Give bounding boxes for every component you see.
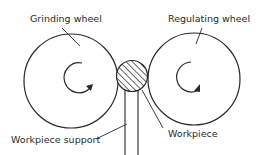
rotation-arrow-icon xyxy=(177,62,197,92)
arrowhead-icon xyxy=(194,84,200,92)
rotation-arrow-icon xyxy=(64,63,90,93)
label-workpiece-support: Workpiece support xyxy=(11,134,100,145)
label-grinding-wheel: Grinding wheel xyxy=(30,13,102,24)
centerless-grinding-diagram: Grinding wheel Regulating wheel Workpiec… xyxy=(0,0,256,155)
label-workpiece: Workpiece xyxy=(168,128,218,139)
leader-grinding-wheel xyxy=(62,28,80,46)
grinding-wheel xyxy=(24,34,118,128)
leader-regulating-wheel xyxy=(196,28,202,44)
label-regulating-wheel: Regulating wheel xyxy=(168,13,250,24)
workpiece xyxy=(114,58,150,94)
leader-workpiece-support xyxy=(96,124,127,139)
regulating-wheel xyxy=(148,33,240,125)
workpiece-support xyxy=(125,88,138,155)
